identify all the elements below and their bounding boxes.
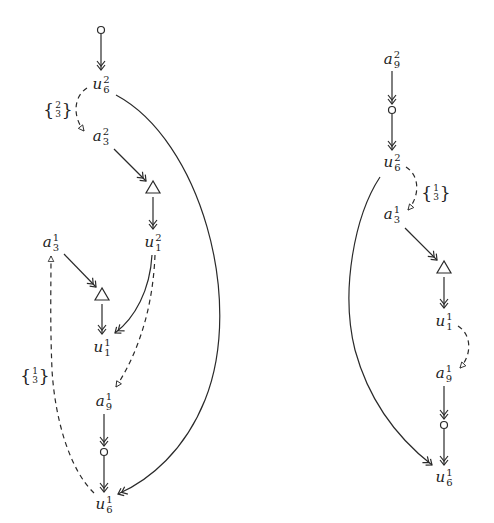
node-u-6-2: u26 xyxy=(92,76,109,95)
set-label-one-third: {13} xyxy=(421,184,450,202)
dashed-edge-u61-to-a31 xyxy=(51,256,94,493)
left-graph xyxy=(51,27,220,495)
right-graph xyxy=(349,71,469,465)
node-a-9-1: a19 xyxy=(96,393,112,412)
circle-node xyxy=(441,422,448,429)
circle-node xyxy=(101,449,108,456)
node-a-9-2: a29 xyxy=(384,51,400,70)
node-a-9-1: a19 xyxy=(436,365,452,384)
dashed-edge-u62-to-a32 xyxy=(76,88,87,131)
node-u-1-2: u21 xyxy=(144,234,161,253)
start-node-circle xyxy=(98,27,105,34)
edge-a31-to-triangle xyxy=(405,228,437,260)
dashed-edge-u62-to-a31 xyxy=(406,167,417,210)
triangle-node xyxy=(437,261,451,273)
circle-node xyxy=(389,107,396,114)
edge-a32-to-triangle xyxy=(114,149,146,181)
node-u-6-2: u26 xyxy=(383,154,400,173)
node-a-3-1: a13 xyxy=(384,206,400,225)
triangle-node xyxy=(95,288,109,300)
node-u-6-1: u16 xyxy=(435,469,452,488)
set-label-one-third: {13} xyxy=(20,367,49,385)
dashed-edge-u11-to-a91 xyxy=(458,326,469,368)
node-u-6-1: u16 xyxy=(95,496,112,515)
node-a-3-1: a13 xyxy=(43,234,59,253)
edge-u62-to-u61-arc xyxy=(116,95,220,494)
edge-a31-to-triangle xyxy=(64,254,96,287)
node-a-3-2: a23 xyxy=(93,128,109,147)
set-label-two-thirds: {23} xyxy=(43,101,72,119)
node-u-1-1: u11 xyxy=(93,339,110,358)
triangle-node xyxy=(146,181,160,193)
diagram-canvas xyxy=(0,0,494,523)
edge-u12-to-u11 xyxy=(115,255,152,333)
node-u-1-1: u11 xyxy=(435,313,452,332)
